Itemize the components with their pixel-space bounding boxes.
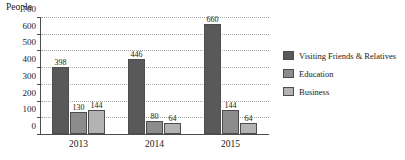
bar-value-label: 64: [169, 115, 177, 123]
bar: 144: [88, 110, 105, 134]
bar-value-label: 64: [245, 115, 253, 123]
y-tick-mark: [37, 50, 40, 51]
bar-groups: 398130144201344680642014660144642015: [41, 17, 266, 134]
y-tick-mark: [37, 17, 40, 18]
legend-color-swatch: [283, 87, 294, 96]
bar: 398: [52, 67, 69, 134]
bar: 660: [204, 24, 221, 134]
x-axis-line: [40, 134, 269, 135]
bar: 64: [240, 123, 257, 134]
y-tick-label: 200: [23, 88, 37, 97]
y-tick-mark: [37, 101, 40, 102]
x-axis-category-label: 2015: [221, 139, 240, 149]
x-axis-category-label: 2013: [69, 139, 88, 149]
bar: 446: [128, 59, 145, 134]
y-tick-mark: [37, 117, 40, 118]
legend-item-label: Visiting Friends & Relatives: [299, 51, 396, 61]
y-tick-label: 300: [23, 71, 37, 80]
legend-color-swatch: [283, 69, 294, 78]
y-tick-label: 400: [23, 55, 37, 64]
bar: 130: [70, 112, 87, 134]
bar-value-label: 144: [91, 102, 103, 110]
bar-value-label: 80: [151, 113, 159, 121]
bar-group: 660144642015: [193, 17, 269, 134]
y-tick-label: 500: [23, 38, 37, 47]
bar-value-label: 130: [73, 104, 85, 112]
y-tick-mark: [37, 84, 40, 85]
bar-group: 44680642014: [117, 17, 193, 134]
legend-item[interactable]: Visiting Friends & Relatives: [283, 48, 403, 63]
y-tick-label: 0: [32, 122, 37, 131]
y-tick-mark: [37, 67, 40, 68]
legend-color-swatch: [283, 51, 294, 60]
y-tick-mark: [37, 134, 40, 135]
y-tick-mark: [37, 34, 40, 35]
bar: 80: [146, 121, 163, 134]
legend-item[interactable]: Education: [283, 66, 403, 81]
chart-legend: Visiting Friends & RelativesEducationBus…: [283, 48, 403, 102]
y-tick-label: 100: [23, 105, 37, 114]
bar-value-label: 398: [55, 59, 67, 67]
plot-area: 0100200300400500600700 39813014420134468…: [40, 17, 266, 135]
bar: 64: [164, 123, 181, 134]
bar-value-label: 446: [131, 51, 143, 59]
bar-chart: People 0100200300400500600700 3981301442…: [0, 0, 405, 160]
y-tick-label: 700: [23, 5, 37, 14]
legend-item[interactable]: Business: [283, 84, 403, 99]
legend-item-label: Business: [299, 87, 329, 97]
legend-item-label: Education: [299, 69, 333, 79]
x-axis-category-label: 2014: [145, 139, 164, 149]
bar-value-label: 660: [207, 16, 219, 24]
bar-group: 3981301442013: [41, 17, 117, 134]
y-tick-label: 600: [23, 21, 37, 30]
bar-value-label: 144: [225, 102, 237, 110]
bar: 144: [222, 110, 239, 134]
